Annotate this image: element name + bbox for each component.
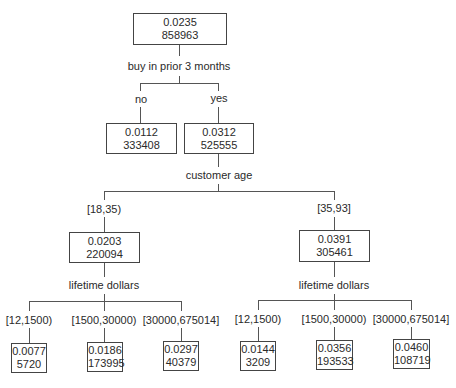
branch-label-right-3: [30000,675014] [373,313,449,326]
node-rate: 0.0186 [88,344,122,357]
node-age-35-93: 0.0391 305461 [299,230,370,262]
branch-label-no: no [135,93,147,106]
tree-connectors [0,0,456,388]
leaf-right-3: 0.0460 108719 [393,339,430,369]
node-rate: 0.0356 [317,342,352,355]
branch-label-age-35-93: [35,93] [317,202,351,215]
node-count: 40379 [164,356,198,369]
split-label-customer-age: customer age [186,169,253,182]
node-rate: 0.0235 [134,16,226,29]
branch-label-right-1: [12,1500) [235,313,281,326]
leaf-right-1: 0.0144 3209 [240,341,276,371]
node-yes: 0.0312 525555 [184,123,254,154]
node-rate: 0.0077 [12,345,46,358]
split-label-lifetime-left: lifetime dollars [69,279,139,292]
branch-label-left-1: [12,1500) [6,314,52,327]
branch-label-right-2: [1500,30000) [302,313,367,326]
leaf-left-1: 0.0077 5720 [11,343,47,373]
branch-label-left-2: [1500,30000) [72,314,137,327]
branch-label-left-3: [30000,675014] [143,314,219,327]
node-rate: 0.0112 [107,126,176,139]
node-age-18-35: 0.0203 220094 [69,232,140,263]
branch-label-age-18-35: [18,35) [87,203,121,216]
node-count: 108719 [394,354,429,367]
node-count: 220094 [70,248,139,261]
root-node: 0.0235 858963 [133,13,227,45]
split-label-lifetime-right: lifetime dollars [299,279,369,292]
leaf-left-2: 0.0186 173995 [87,342,123,372]
node-rate: 0.0460 [394,341,429,354]
node-count: 3209 [241,356,275,369]
leaf-right-2: 0.0356 193533 [316,340,353,370]
branch-label-yes: yes [210,92,227,105]
node-rate: 0.0391 [300,233,369,246]
node-rate: 0.0312 [185,126,253,139]
node-rate: 0.0297 [164,343,198,356]
node-rate: 0.0203 [70,235,139,248]
node-no: 0.0112 333408 [106,123,177,154]
node-count: 525555 [185,139,253,152]
node-count: 858963 [134,29,226,42]
node-count: 5720 [12,358,46,371]
node-count: 305461 [300,246,369,259]
leaf-left-3: 0.0297 40379 [163,341,199,371]
node-count: 333408 [107,139,176,152]
node-count: 193533 [317,355,352,368]
split-label-root: buy in prior 3 months [128,60,231,73]
node-rate: 0.0144 [241,343,275,356]
node-count: 173995 [88,357,122,370]
